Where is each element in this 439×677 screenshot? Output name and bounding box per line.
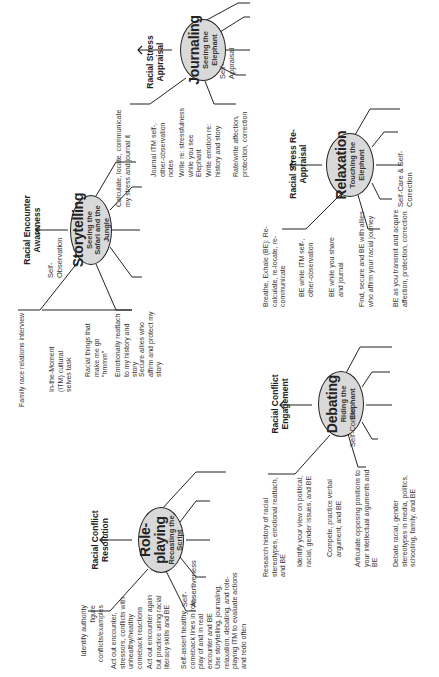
relaxation-node: Relaxation Touching the Elephant (326, 133, 374, 197)
debating-title: Debating (325, 375, 340, 433)
storytelling-title: Storytelling (71, 193, 86, 268)
role-playing-activity-5: Use storytelling, journaling, relaxation… (214, 569, 248, 669)
relaxation-activity-5: BE as you transmit and acquire affection… (392, 207, 409, 307)
debating-activity-1: Research history of racial stereotypes, … (262, 467, 288, 577)
storytelling-activity-1: Family race relations interview (18, 307, 27, 407)
journaling-activity-2: Journal ITM self-, other-observation not… (150, 111, 176, 177)
relaxation-outcome-label: Self-Care & Self-Correction (396, 147, 414, 207)
storytelling-subtitle: Seeing the Safari and the Jungle (86, 196, 112, 264)
debating-node: Debating Riding the Elephant (318, 371, 364, 437)
storytelling-activity-3: Racial things that make me go "hmmm" (84, 319, 110, 377)
journaling-outcome-label: Self-Appraisal (218, 39, 236, 79)
storytelling-stage-label: Racial Encounter Awareness (22, 185, 42, 275)
journaling-activity-5: Rate/write affection, protection, correc… (232, 111, 249, 177)
role-playing-activity-3: Act out encounter again but practice usi… (146, 589, 172, 669)
storytelling-activity-5: Secure allies who affirm and protect my … (138, 303, 164, 377)
debating-activity-3: Compete, practice verbal argument, and B… (326, 477, 343, 557)
relaxation-title: Relaxation (334, 131, 349, 200)
journaling-activity-4: Write emotion re: history and story (205, 111, 222, 177)
journaling-activity-3: Write re: stressfulness while you see El… (178, 107, 204, 177)
debating-activity-2: Identify your view on political, racial,… (296, 467, 313, 567)
journaling-title: Journaling (187, 15, 202, 85)
journaling-stage-label: Racial Stress Appraisal (145, 32, 165, 92)
journaling-subtitle: Seeing the Elephant (202, 20, 219, 80)
relaxation-stage-label: Racial Stress Re-Appraisal (288, 129, 308, 199)
role-playing-stage-label: Racial Conflict Resolution (90, 507, 110, 573)
storytelling-activity-4: Emotionally reattach to my history and s… (114, 311, 140, 377)
relaxation-subtitle: Touching the Elephant (349, 134, 366, 196)
debating-activity-5: Debate racial, gender stereotypes in med… (392, 467, 418, 567)
storytelling-activity-2: In-the-Moment (ITM) cultural selves task (48, 334, 74, 392)
relaxation-activity-4: Find, secure and BE with allies who affi… (358, 207, 375, 307)
debating-outcome-label: Self-Control (348, 377, 357, 447)
role-playing-activity-4: Self-assert healthy comeback lines in ro… (180, 587, 214, 669)
relaxation-activity-2: BE while ITM self-, other-observation (298, 231, 315, 297)
role-playing-title: Role-playing (138, 508, 168, 572)
storytelling-outcome-label: Self-Observation (46, 236, 64, 278)
relaxation-activity-1: Breathe, Exhale (BE): Re-calculate, re-l… (262, 207, 288, 307)
relaxation-activity-3: BE while you share and journal (328, 231, 345, 297)
storytelling-node: Storytelling Seeing the Safari and the J… (70, 195, 112, 265)
role-playing-node: Role-playing Recasting the Script (138, 507, 184, 573)
role-playing-activity-1: Identify authority figure conflicts/exam… (80, 605, 106, 669)
debating-stage-label: Racial Conflict Engagement (270, 371, 290, 437)
diagram-canvas: Racial literacy skill-building processes… (0, 0, 439, 677)
journaling-activity-1: Calculate, locate, communicate my stress… (115, 107, 132, 207)
debating-activity-4: Articulate opposing positions to your in… (354, 467, 380, 567)
role-playing-activity-2: Act out encounter, stressors, conflicts … (110, 589, 144, 669)
